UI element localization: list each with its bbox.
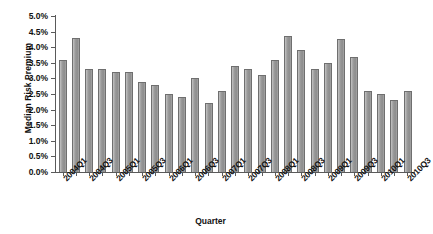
bar-slot [308, 16, 321, 172]
bar-slot [162, 16, 175, 172]
bar [59, 60, 67, 172]
y-axis-tick-label: 2.5% [29, 90, 48, 98]
y-axis-tick-label: 2.0% [29, 106, 48, 114]
bar [244, 69, 252, 172]
y-axis-tick [51, 172, 56, 173]
bar-series [56, 16, 414, 172]
bar-slot [361, 16, 374, 172]
bar-slot [268, 16, 281, 172]
bar-slot [374, 16, 387, 172]
bar-slot [295, 16, 308, 172]
bar [271, 60, 279, 172]
bar-slot [56, 16, 69, 172]
bar [85, 69, 93, 172]
bar [337, 39, 345, 172]
bar-slot [255, 16, 268, 172]
bar [324, 63, 332, 172]
bar-slot [228, 16, 241, 172]
bar [138, 82, 146, 172]
bar-slot [282, 16, 295, 172]
bar [218, 91, 226, 172]
bar-slot [242, 16, 255, 172]
bar-slot [109, 16, 122, 172]
bar-slot [96, 16, 109, 172]
bar-slot [122, 16, 135, 172]
bar-slot [401, 16, 414, 172]
y-axis-tick-label: 0.0% [29, 168, 48, 176]
bar-slot [388, 16, 401, 172]
y-axis-tick-label: 4.5% [29, 28, 48, 36]
bar [231, 66, 239, 172]
bar-slot [335, 16, 348, 172]
bar-slot [202, 16, 215, 172]
bar-slot [136, 16, 149, 172]
bar-slot [83, 16, 96, 172]
bar-slot [149, 16, 162, 172]
bar [112, 72, 120, 172]
bar-slot [69, 16, 82, 172]
bar [284, 36, 292, 172]
bar-slot [175, 16, 188, 172]
y-axis-tick-label: 0.5% [29, 152, 48, 160]
x-axis-title: Quarter [0, 216, 421, 226]
bar-slot [348, 16, 361, 172]
bar-slot [189, 16, 202, 172]
y-axis-tick-label: 3.5% [29, 59, 48, 67]
bar [297, 50, 305, 172]
bar-slot [321, 16, 334, 172]
bar [72, 38, 80, 172]
y-axis-tick-label: 3.0% [29, 74, 48, 82]
bar [350, 57, 358, 172]
bar-slot [215, 16, 228, 172]
y-axis-tick-label: 4.0% [29, 43, 48, 51]
bar [191, 78, 199, 172]
y-axis-tick-label: 5.0% [29, 12, 48, 20]
y-axis-tick-label: 1.0% [29, 137, 48, 145]
y-axis-tick-label: 1.5% [29, 121, 48, 129]
